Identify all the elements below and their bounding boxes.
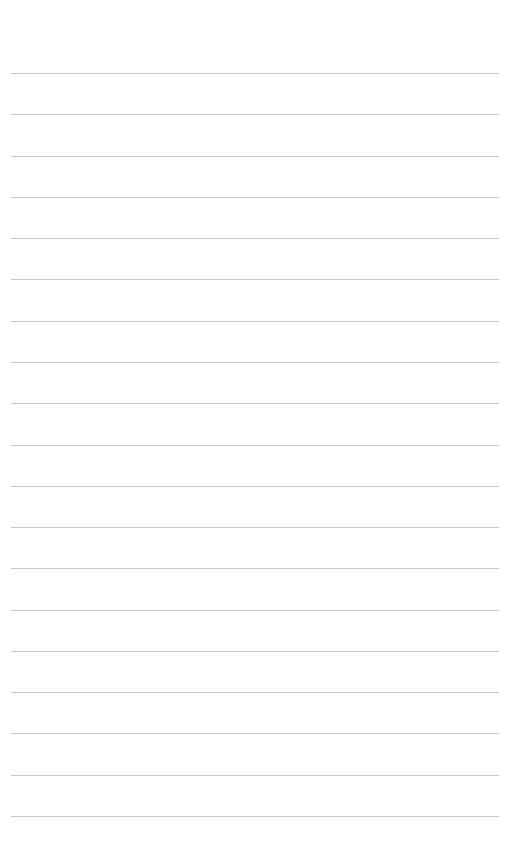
ruled-line (11, 238, 499, 239)
ruled-line (11, 73, 499, 74)
ruled-line (11, 816, 499, 817)
ruled-line (11, 527, 499, 528)
ruled-line (11, 114, 499, 115)
ruled-line (11, 651, 499, 652)
ruled-line (11, 775, 499, 776)
ruled-line (11, 486, 499, 487)
ruled-line (11, 568, 499, 569)
ruled-line (11, 197, 499, 198)
ruled-line (11, 610, 499, 611)
ruled-line (11, 362, 499, 363)
ruled-line (11, 321, 499, 322)
ruled-line (11, 445, 499, 446)
lined-paper-page (0, 0, 522, 854)
ruled-line (11, 403, 499, 404)
ruled-line (11, 733, 499, 734)
ruled-line (11, 156, 499, 157)
ruled-line (11, 279, 499, 280)
ruled-line (11, 692, 499, 693)
